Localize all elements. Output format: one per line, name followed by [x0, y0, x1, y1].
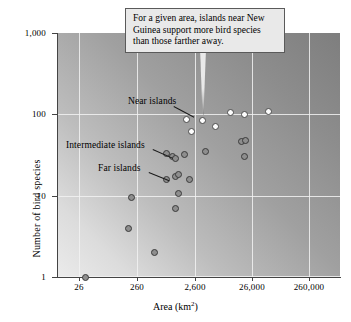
data-point [172, 205, 179, 212]
callout-box: For a given area, islands near New Guine… [125, 8, 285, 53]
intermediate-islands-label: Intermediate islands [66, 140, 145, 150]
data-point [202, 148, 209, 155]
data-point [199, 117, 206, 124]
callout-line-3: than those farther away. [133, 36, 278, 48]
callout-line-1: For a given area, islands near New [133, 13, 278, 25]
far-islands-label: Far islands [98, 163, 141, 173]
data-point [183, 116, 190, 123]
data-point [82, 274, 89, 281]
data-point [227, 109, 234, 116]
data-point [186, 176, 193, 183]
data-point [242, 137, 249, 144]
data-point [175, 190, 182, 197]
data-point [241, 111, 248, 118]
data-point [188, 128, 195, 135]
data-point [181, 151, 188, 158]
near-islands-label: Near islands [128, 96, 176, 106]
data-point [241, 153, 248, 160]
data-point [175, 171, 182, 178]
data-point [212, 123, 219, 130]
data-point [265, 108, 272, 115]
callout-line-2: Guinea support more bird species [133, 25, 278, 37]
data-point [125, 225, 132, 232]
data-point [128, 194, 135, 201]
figure: 26 260 2,600 26,000 260,000 1,000 100 10… [0, 0, 351, 322]
data-point [151, 249, 158, 256]
